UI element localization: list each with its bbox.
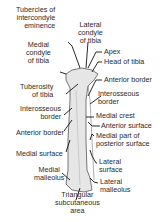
label-head-of-tibia: Head of tibia (104, 58, 144, 66)
label-lateral-condyle: Lateral condyle of tibia (78, 21, 103, 46)
label-medial-part-posterior-surface: Medial part of posterior surface (96, 132, 150, 148)
label-medial-condyle: Medial condyle of tibia (26, 41, 51, 66)
label-tuberosity-of-tibia: Tuberosity of tibia (20, 83, 53, 99)
label-tubercles-intercondyle-eminence: Tubercles of intercondyle eminence (16, 6, 55, 31)
label-apex: Apex (104, 48, 120, 56)
label-anterior-surface: Anterior surface (101, 122, 152, 130)
label-interosseous-border-right: Interosseous border (98, 90, 139, 106)
label-medial-crest: Medial crest (96, 112, 135, 120)
label-lateral-surface: Lateral surface (99, 158, 123, 174)
label-triangular-subcutaneous-area: Triangular subcutaneous area (55, 191, 100, 216)
label-interosseous-border-left: Interosseous border (20, 105, 61, 121)
label-medial-surface: Medial surface (16, 150, 63, 158)
label-anterior-border-left: Anterior border (16, 129, 64, 137)
label-lateral-malleolus: Lateral malleolus (100, 178, 130, 194)
label-medial-malleolus: Medial malleolus (34, 166, 64, 182)
label-anterior-border-right: Anterior border (104, 76, 152, 84)
